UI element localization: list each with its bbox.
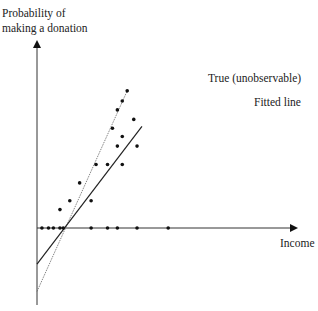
fitted-line-label: Fitted line [254,96,301,108]
data-point [135,226,139,230]
data-point [78,181,82,185]
data-point [89,199,93,203]
data-point [61,226,65,230]
data-point [120,135,124,139]
y-axis-label-line-1: Probability of [2,7,66,20]
data-point [106,163,110,167]
data-point [116,108,120,112]
data-point [106,226,110,230]
data-point [132,118,136,122]
data-point [120,99,124,103]
true-line [37,91,127,292]
scatter-points [40,89,170,230]
data-point [116,144,120,148]
data-point [40,226,44,230]
data-point [135,144,139,148]
data-point [47,226,51,230]
data-point [94,163,98,167]
data-point [52,226,56,230]
data-point [166,226,170,230]
true-line-label: True (unobservable) [208,72,301,85]
data-point [68,199,72,203]
data-point [89,226,93,230]
data-point [116,226,120,230]
y-axis-label-line-2: making a donation [2,22,88,35]
data-point [58,208,62,212]
chart: Probability of making a donation Income … [0,0,318,311]
data-point [111,127,115,131]
fitted-line [37,126,142,264]
data-point [58,226,62,230]
data-point [125,89,129,93]
data-point [120,163,124,167]
x-axis-label: Income [280,237,314,249]
